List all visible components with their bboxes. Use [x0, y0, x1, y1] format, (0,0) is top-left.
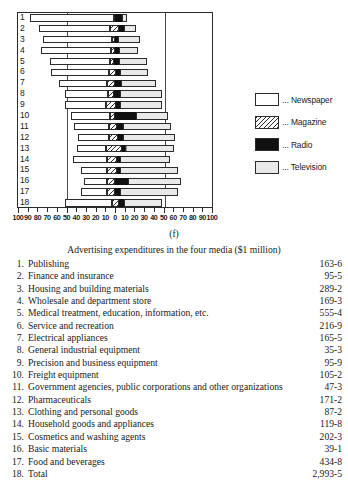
bar-segment-newspaper [39, 25, 110, 32]
x-axis-tick-label: 60 [170, 213, 177, 223]
bar-segment-newspaper [77, 145, 106, 152]
list-item-name: Cosmetics and washing agents [28, 431, 292, 443]
bar-row: 11 [18, 122, 212, 132]
bar-segment-television [121, 80, 156, 87]
list-item-name: Total [28, 468, 292, 480]
x-axis-tick [173, 208, 174, 212]
stacked-bar [65, 101, 162, 108]
list-item: 17.Food and beverages434-8 [8, 456, 342, 468]
bar-row-label: 16 [20, 175, 29, 185]
x-axis-tick [183, 208, 184, 212]
bar-row-label: 8 [20, 88, 25, 98]
bar-segment-television [119, 47, 138, 54]
x-axis-tick-label: 40 [73, 213, 80, 223]
bar-segment-newspaper [81, 188, 107, 195]
bar-row: 4 [18, 46, 212, 56]
bar-rows: 123456789101112131415161718 [18, 13, 212, 207]
plot-frame: 123456789101112131415161718 [17, 12, 213, 208]
legend-label-television: ... Television [282, 161, 327, 173]
list-item-name: Freight equipment [28, 369, 292, 381]
list-item-number: 9. [8, 357, 28, 369]
list-item: 6.Service and recreation216-9 [8, 320, 342, 332]
bar-segment-magazine [107, 156, 117, 163]
bar-segment-television [120, 90, 162, 97]
bar-row: 10 [18, 111, 212, 121]
bar-row: 16 [18, 176, 212, 186]
bar-row-label: 9 [20, 99, 25, 109]
legend-item-television: ... Television [255, 160, 347, 175]
list-item-value: 163-6 [292, 258, 342, 270]
bar-segment-newspaper [50, 58, 110, 65]
bar-row-label: 15 [20, 164, 29, 174]
x-axis-tick-label: 90 [24, 213, 31, 223]
list-item: 10.Freight equipment105-2 [8, 369, 342, 381]
x-axis-tick [96, 208, 97, 212]
stacked-bar [77, 145, 174, 152]
bar-segment-magazine [109, 134, 118, 141]
bar-segment-newspaper [71, 112, 110, 119]
list-item-value: 289-2 [292, 283, 342, 295]
bar-segment-radio [115, 178, 128, 185]
stacked-bar [41, 47, 138, 54]
list-item-number: 8. [8, 344, 28, 356]
figure-page: 123456789101112131415161718 100908070605… [0, 0, 348, 482]
list-item-number: 14. [8, 418, 28, 430]
list-item: 12.Pharmaceuticals171-2 [8, 394, 342, 406]
bar-segment-magazine [112, 199, 119, 206]
x-axis-tick-label: 10 [121, 213, 128, 223]
list-item-number: 3. [8, 283, 28, 295]
bar-segment-magazine [107, 80, 115, 87]
list-item-value: 165-5 [292, 332, 342, 344]
bar-segment-newspaper [73, 156, 107, 163]
legend-label-newspaper: ... Newspaper [282, 94, 332, 106]
list-item-name: Household goods and appliances [28, 418, 292, 430]
x-axis-tick-label: 100 [13, 213, 24, 223]
list-item-name: Electrical appliances [28, 332, 292, 344]
bar-row-label: 4 [20, 45, 25, 55]
x-axis-tick-label: 20 [92, 213, 99, 223]
stacked-bar [59, 80, 156, 87]
legend-swatch-television-icon [255, 161, 279, 174]
list-item-name: Service and recreation [28, 320, 292, 332]
bar-segment-television [120, 101, 162, 108]
x-axis-tick-label: 20 [131, 213, 138, 223]
legend-item-magazine: ... Magazine [255, 115, 347, 130]
list-item-number: 4. [8, 295, 28, 307]
list-item-value: 95-5 [292, 270, 342, 282]
list-item-value: 169-3 [292, 295, 342, 307]
list-item: 8.General industrial equipment35-3 [8, 344, 342, 356]
bar-row-label: 14 [20, 154, 29, 164]
list-item-number: 16. [8, 443, 28, 455]
x-axis-tick-label: 100 [207, 213, 218, 223]
x-axis-tick-label: 50 [63, 213, 70, 223]
x-axis-tick [76, 208, 77, 212]
stacked-bar [39, 25, 136, 32]
stacked-bar [73, 156, 170, 163]
list-item-number: 18. [8, 468, 28, 480]
bar-row: 18 [18, 198, 212, 208]
x-axis-tick-label: 80 [34, 213, 41, 223]
bar-segment-television [123, 123, 172, 130]
list-item: 14.Household goods and appliances119-8 [8, 418, 342, 430]
stacked-bar [65, 199, 162, 206]
list-item-number: 11. [8, 381, 28, 393]
list-item-number: 6. [8, 320, 28, 332]
list-item-value: 105-2 [292, 369, 342, 381]
x-axis-tick [57, 208, 58, 212]
x-axis-tick [134, 208, 135, 212]
x-axis-tick [47, 208, 48, 212]
bar-row-label: 17 [20, 186, 29, 196]
legend-label-radio: ... Radio [282, 139, 312, 151]
legend-swatch-newspaper-icon [255, 93, 279, 106]
bar-segment-television [118, 36, 140, 43]
x-axis-tick-label: 0 [113, 213, 117, 223]
x-axis-tick [202, 208, 203, 212]
bar-segment-radio [115, 112, 136, 119]
bar-segment-newspaper [65, 90, 109, 97]
list-item-name: Housing and building materials [28, 283, 292, 295]
bar-row-label: 7 [20, 77, 25, 87]
bar-row-label: 11 [20, 121, 28, 131]
bar-segment-television [120, 69, 148, 76]
bar-row-label: 5 [20, 56, 25, 66]
x-axis-tick [125, 208, 126, 212]
